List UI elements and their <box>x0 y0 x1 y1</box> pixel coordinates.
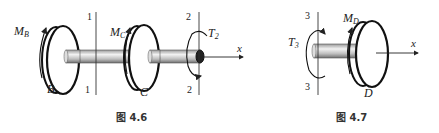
x-axis-label: x <box>236 42 242 54</box>
caption-fig-4-6: 图 4.6 <box>116 112 147 123</box>
section1-bottom-label: 1 <box>85 84 90 95</box>
section3-bottom-label: 3 <box>305 81 310 92</box>
shaft-d <box>314 44 360 58</box>
diagrams: MB 1 1 B MC C 2 2 T2 x 图 4.6 <box>0 0 439 133</box>
svg-text:MC: MC <box>109 25 126 40</box>
torque-t3-subscript: 3 <box>294 41 299 50</box>
caption-fig-4-7: 图 4.7 <box>336 112 367 123</box>
figure-canvas: MB 1 1 B MC C 2 2 T2 x 图 4.6 <box>0 0 439 133</box>
moment-d-subscript: D <box>352 17 359 26</box>
section1-top-label: 1 <box>87 11 92 22</box>
disc-d-label: D <box>363 86 373 100</box>
svg-text:T2: T2 <box>208 26 219 41</box>
shaft-end <box>196 50 204 63</box>
disc-c-label: C <box>140 85 149 99</box>
figure-4-7: 3 3 T3 MD D x 图 4.7 <box>288 10 418 123</box>
torque-t2-subscript: 2 <box>215 32 219 41</box>
svg-text:T3: T3 <box>288 35 299 50</box>
svg-text:MD: MD <box>342 11 359 26</box>
moment-b-subscript: B <box>24 30 29 39</box>
section2-bottom-label: 2 <box>187 84 192 95</box>
section2-top-label: 2 <box>186 11 191 22</box>
x-axis-label-2: x <box>410 37 416 49</box>
svg-text:MB: MB <box>13 24 29 39</box>
disc-b-label: B <box>47 82 55 96</box>
disc-d <box>356 21 388 87</box>
section3-top-label: 3 <box>305 10 310 21</box>
moment-c-subscript: C <box>120 31 126 40</box>
figure-4-6: MB 1 1 B MC C 2 2 T2 x 图 4.6 <box>13 11 243 123</box>
